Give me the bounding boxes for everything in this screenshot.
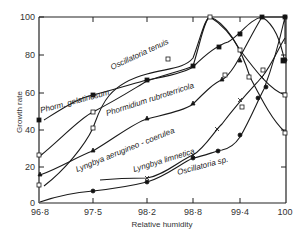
y-tick-20: 20 [25,162,35,172]
x-tick-96-8: 96·8 [31,207,49,217]
x-axis-title: Relative humidity [132,220,193,229]
x-tick-98-2: 98·2 [138,207,156,217]
y-tick-80: 80 [25,50,35,60]
y-axis-title: Growth rate [15,91,24,133]
x-tick-97-5: 97·5 [84,207,102,217]
x-tick-labels: 96·8 97·5 98·2 98·8 99·4 100 [31,207,293,217]
x-tick-100: 100 [277,207,292,217]
x-tick-99-4: 99·4 [231,207,249,217]
growth-rate-chart: 100 80 60 40 20 0 96·8 97·5 98·2 98·8 99… [0,0,303,236]
y-tick-100: 100 [20,12,35,22]
label-lyngbya-aerugineo-coerulea: Lyngbya aerugineo - coerulea [74,126,176,174]
y-tick-60: 60 [25,88,35,98]
y-tick-40: 40 [25,125,35,135]
label-oscillatoria-tenuis: Oscillatoria tenuis [109,37,170,72]
x-tick-98-8: 98·8 [184,207,202,217]
